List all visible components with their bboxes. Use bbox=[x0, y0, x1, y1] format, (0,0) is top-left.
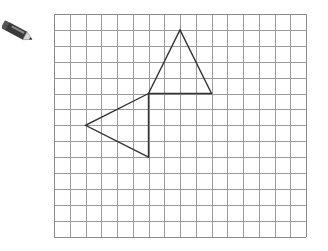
drawing-grid[interactable] bbox=[0, 0, 328, 251]
shape-layer bbox=[86, 30, 212, 157]
grid-lines bbox=[54, 14, 307, 238]
